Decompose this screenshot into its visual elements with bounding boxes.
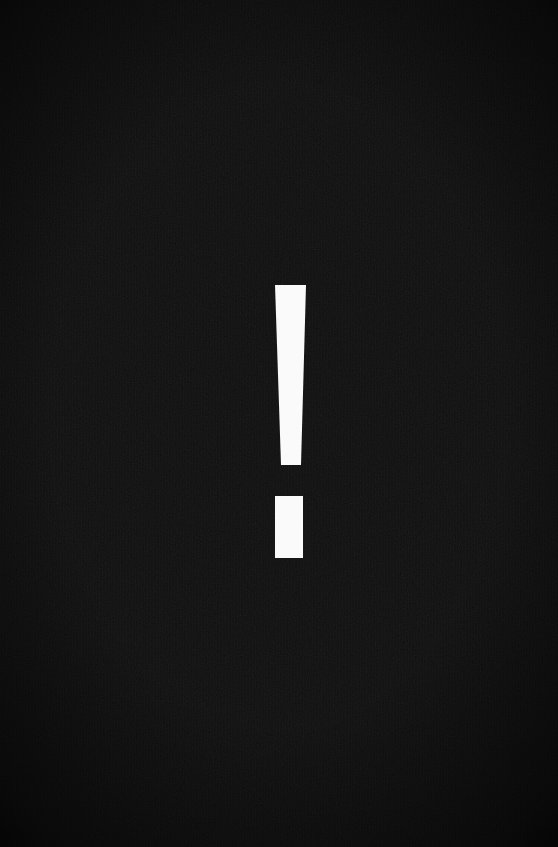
background-field — [0, 0, 558, 847]
screen-canvas — [0, 0, 558, 847]
